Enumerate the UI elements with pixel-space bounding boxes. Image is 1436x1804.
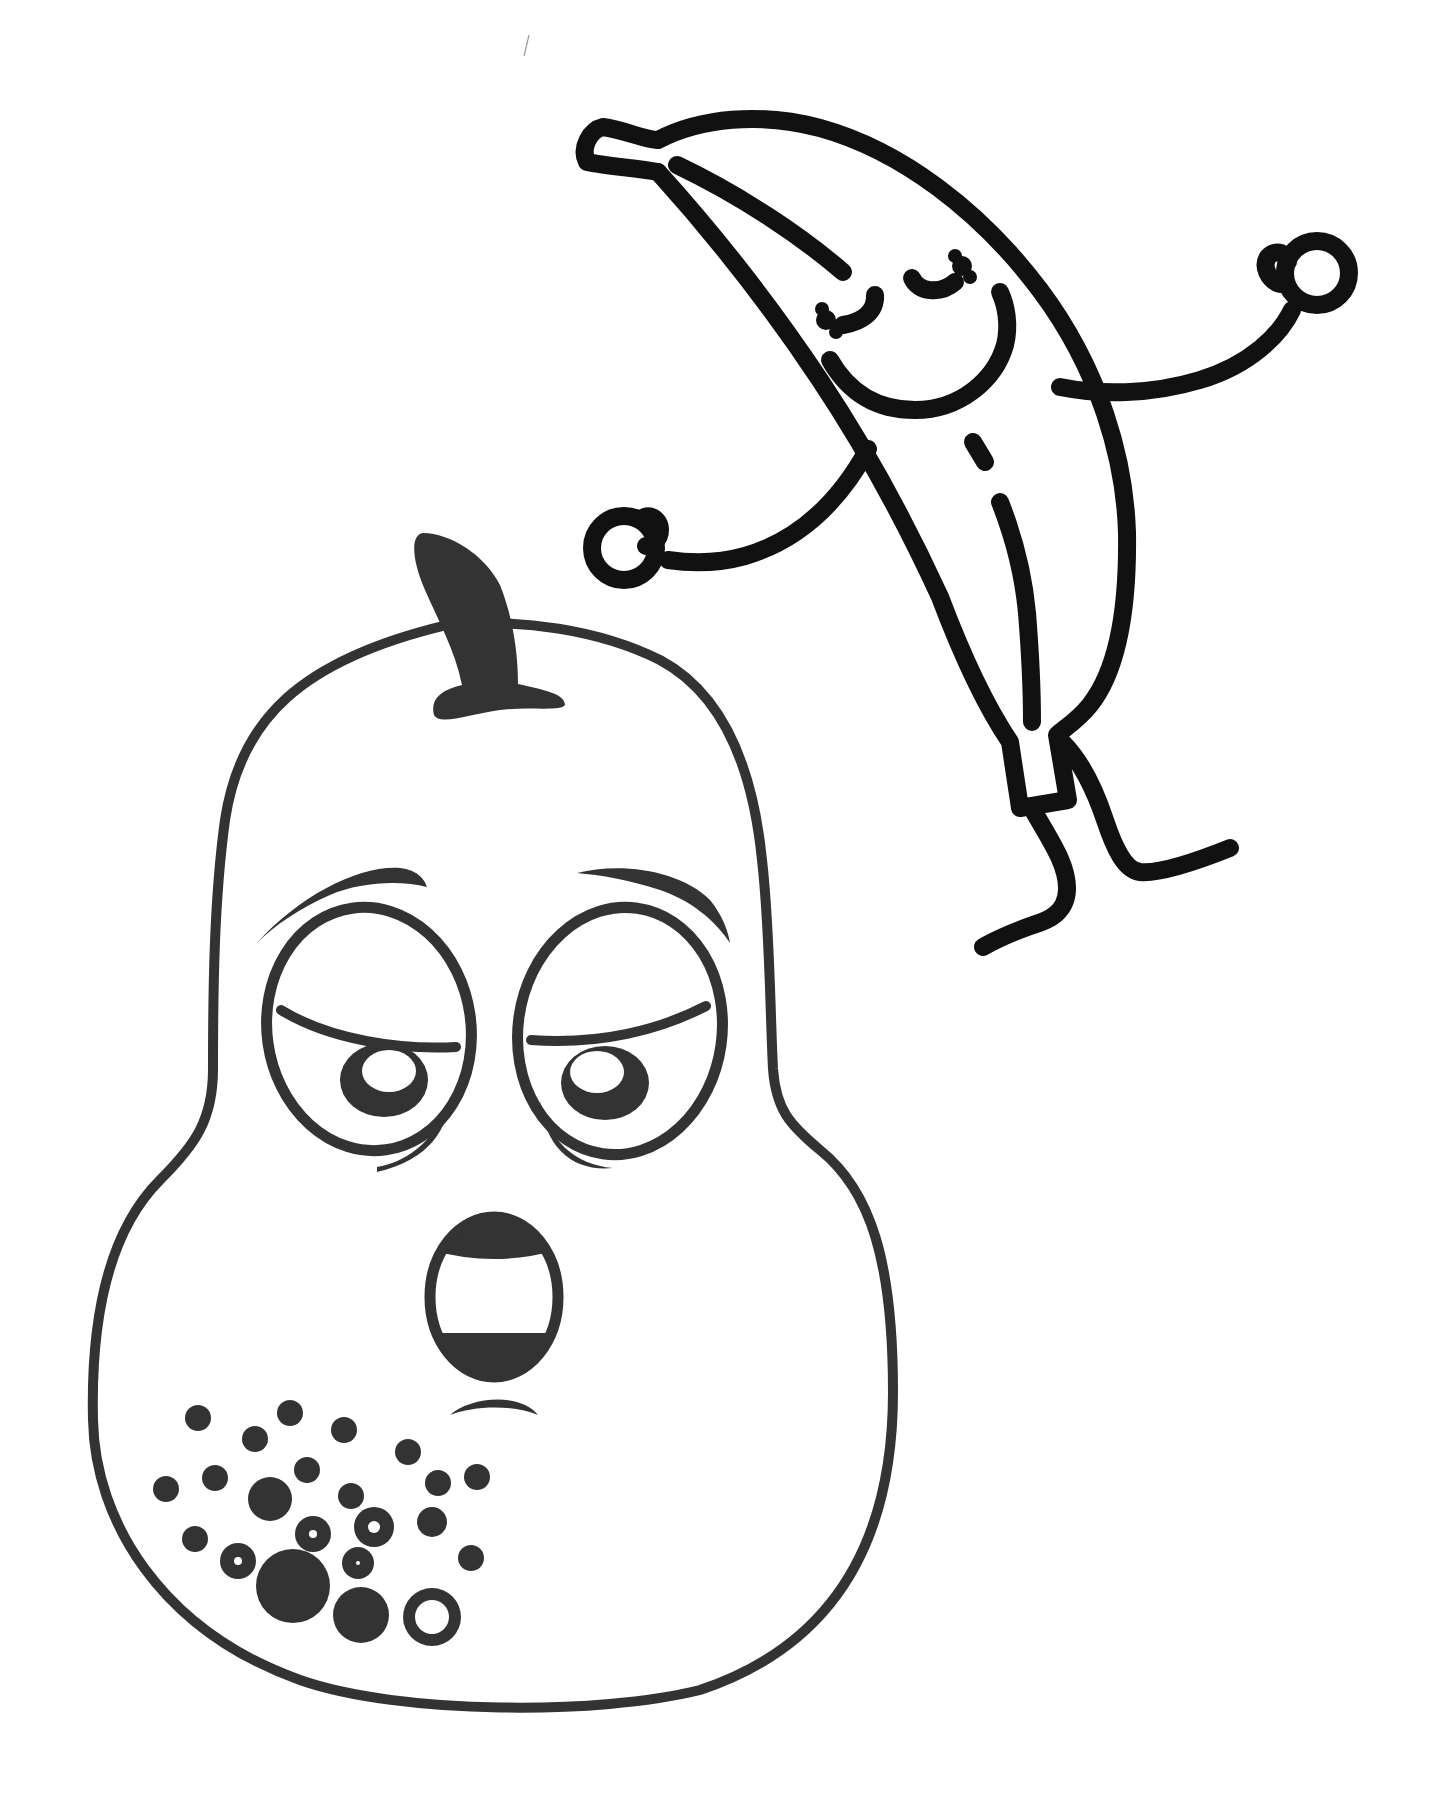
freckle-spot-hole [234,1557,242,1565]
freckle-spot [458,1545,484,1571]
freckle-spot [294,1457,320,1483]
freckle-spot [464,1464,490,1490]
left-eye-highlight [362,1050,416,1092]
freckle-spot [417,1507,447,1537]
freckle-spot [331,1417,357,1443]
freckle-spot [333,1587,389,1643]
eyelash-blob [948,249,962,263]
freckle-spot-hole [309,1530,317,1538]
freckle-spot [153,1476,179,1502]
freckle-spot-hole [356,1561,360,1565]
eyelash-blob [815,302,829,316]
freckle-spot [248,1477,292,1521]
eyelash-blob [829,325,843,339]
freckle-spot [242,1426,268,1452]
freckle-spot [338,1483,364,1509]
freckle-spot [202,1465,228,1491]
eyelash-blob [963,270,977,284]
freckle-spot-hole [368,1521,380,1533]
freckle-spot [425,1470,451,1496]
freckle-spot [182,1526,208,1552]
coloring-page-canvas [0,0,1436,1804]
right-eye-highlight [570,1051,624,1093]
freckle-spot-hole [415,1600,449,1634]
freckle-spot [256,1549,330,1623]
freckle-spot [395,1439,421,1465]
freckle-spot [277,1400,303,1426]
banana-dash [973,442,985,462]
freckle-spot [185,1405,211,1431]
